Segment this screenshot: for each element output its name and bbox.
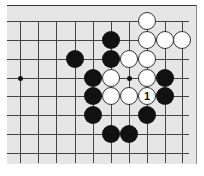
black-stone [102, 50, 120, 68]
grid-line-vertical [20, 21, 21, 163]
grid-line-vertical [56, 21, 57, 163]
white-stone [138, 31, 156, 49]
white-stone [102, 87, 120, 105]
white-stone [156, 31, 174, 49]
black-stone [120, 125, 138, 143]
white-stone [173, 31, 191, 49]
black-stone [156, 69, 174, 87]
black-stone [102, 125, 120, 143]
white-stone [120, 50, 138, 68]
black-stone [84, 106, 102, 124]
grid-line-horizontal [7, 153, 189, 154]
star-point [127, 76, 132, 81]
black-stone [156, 87, 174, 105]
white-stone [138, 69, 156, 87]
grid-line-vertical [75, 21, 76, 163]
grid-line-vertical [38, 21, 39, 163]
grid-line-horizontal [7, 59, 189, 60]
black-stone [84, 69, 102, 87]
white-stone [138, 12, 156, 30]
white-stone: 1 [138, 87, 156, 105]
black-stone [138, 106, 156, 124]
go-board: 1 [0, 0, 204, 176]
white-stone [102, 69, 120, 87]
black-stone [66, 50, 84, 68]
grid-line-horizontal [7, 21, 189, 22]
black-stone [84, 87, 102, 105]
white-stone [138, 50, 156, 68]
black-stone [102, 31, 120, 49]
white-stone [120, 87, 138, 105]
grid-line-horizontal [7, 134, 189, 135]
star-point [18, 76, 23, 81]
